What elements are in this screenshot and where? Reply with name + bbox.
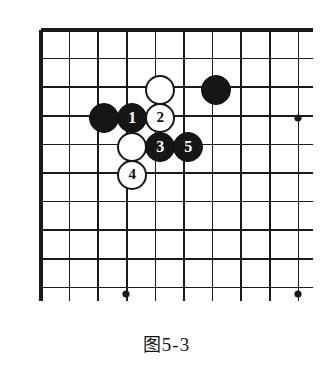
- stone-move-number: 5: [184, 139, 192, 155]
- go-stone-black-move-5: 5: [173, 132, 203, 162]
- stone-move-number: 1: [128, 110, 136, 126]
- go-stone-black-move-1: 1: [117, 103, 147, 133]
- go-stone-white-unnumbered-mid: [117, 132, 147, 162]
- go-stone-black-move-3: 3: [145, 132, 175, 162]
- star-point: [294, 114, 301, 121]
- stone-move-number: 3: [156, 139, 164, 155]
- go-board: 12354: [0, 0, 333, 320]
- go-stone-black-unnumbered-left: [89, 103, 119, 133]
- go-stone-black-unnumbered-right: [201, 75, 231, 105]
- go-diagram-figure: 12354 图5-3: [0, 0, 333, 384]
- go-stone-white-unnumbered-top: [145, 75, 175, 105]
- star-point: [122, 290, 129, 297]
- figure-caption-cjk: 图: [143, 334, 162, 355]
- figure-caption: 图5-3: [0, 330, 333, 356]
- go-stone-white-move-4: 4: [117, 160, 147, 190]
- star-point: [294, 290, 301, 297]
- stone-move-number: 4: [129, 167, 136, 182]
- go-stone-white-move-2: 2: [145, 103, 175, 133]
- stone-move-number: 2: [157, 110, 164, 125]
- figure-caption-number: 5-3: [162, 334, 190, 355]
